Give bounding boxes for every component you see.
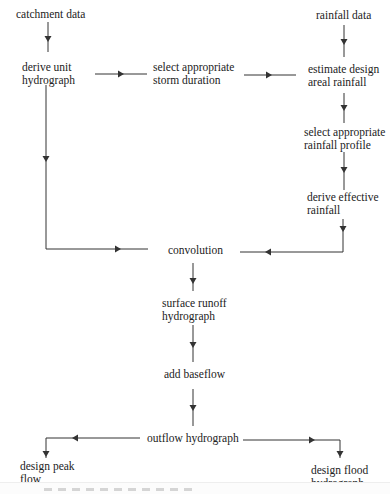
node-label: design peak	[20, 460, 75, 473]
node-add-baseflow: add baseflow	[164, 368, 225, 381]
node-label: hydrograph	[162, 310, 227, 323]
node-label: select appropriate	[304, 126, 385, 139]
node-label: design flood	[311, 464, 368, 477]
node-derive-unit-hydrograph: derive unit hydrograph	[22, 61, 75, 87]
node-select-rainfall-profile: select appropriate rainfall profile	[304, 126, 385, 152]
node-estimate-areal-rainfall: estimate design areal rainfall	[308, 63, 379, 89]
node-rainfall-data: rainfall data	[316, 9, 371, 22]
node-label: rainfall	[307, 204, 379, 217]
node-label: rainfall data	[316, 9, 371, 21]
node-label: add baseflow	[164, 368, 225, 380]
node-label: surface runoff	[162, 297, 227, 310]
truncated-caption	[44, 488, 194, 491]
node-label: estimate design	[308, 63, 379, 76]
node-label: outflow hydrograph	[147, 432, 239, 444]
node-label: convolution	[168, 244, 223, 256]
node-catchment-data: catchment data	[16, 8, 85, 21]
node-select-storm-duration: select appropriate storm duration	[153, 61, 234, 87]
node-label: catchment data	[16, 8, 85, 20]
node-label: rainfall profile	[304, 139, 385, 152]
node-label: select appropriate	[153, 61, 234, 74]
node-label: derive unit	[22, 61, 75, 74]
node-outflow-hydrograph: outflow hydrograph	[147, 432, 239, 445]
node-label: hydrograph	[22, 74, 75, 87]
node-convolution: convolution	[168, 244, 223, 257]
node-surface-runoff-hydrograph: surface runoff hydrograph	[162, 297, 227, 323]
node-label: areal rainfall	[308, 76, 379, 89]
node-label: derive effective	[307, 191, 379, 204]
node-derive-effective-rainfall: derive effective rainfall	[307, 191, 379, 217]
node-label: storm duration	[153, 74, 234, 87]
